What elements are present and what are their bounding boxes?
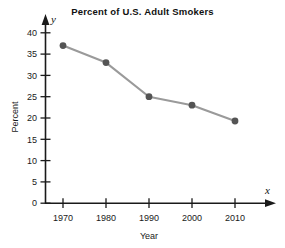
y-tick-label: 10 — [27, 156, 37, 166]
y-axis-tick-labels: 0 5 10 15 20 25 30 35 40 — [27, 28, 37, 208]
data-series-line — [63, 46, 235, 121]
y-axis-symbol: y — [50, 13, 56, 25]
x-axis-symbol: x — [264, 184, 270, 196]
chart-container: Percent of U.S. Adult Smokers y x 0 5 10 — [0, 0, 285, 248]
y-tick-label: 40 — [27, 28, 37, 38]
y-tick-label: 15 — [27, 135, 37, 145]
x-tick-label: 1990 — [139, 213, 159, 223]
data-point-marker — [232, 118, 239, 125]
data-point-marker — [189, 102, 196, 109]
y-tick-label: 5 — [32, 177, 37, 187]
x-tick-label: 1970 — [53, 213, 73, 223]
data-point-marker — [60, 42, 67, 49]
y-axis-label: Percent — [10, 101, 20, 133]
data-point-marker — [103, 59, 110, 66]
x-axis-arrow-icon — [265, 199, 276, 207]
y-axis-arrow-icon — [42, 14, 50, 25]
y-tick-label: 30 — [27, 71, 37, 81]
x-axis-label: Year — [140, 231, 158, 241]
x-tick-label: 2010 — [225, 213, 245, 223]
data-point-marker — [146, 93, 153, 100]
line-chart-plot: y x 0 5 10 15 20 25 30 35 40 — [0, 0, 285, 248]
y-tick-label: 25 — [27, 92, 37, 102]
x-axis-tick-labels: 1970 1980 1990 2000 2010 — [53, 213, 245, 223]
x-tick-label: 1980 — [96, 213, 116, 223]
y-tick-label: 0 — [32, 198, 37, 208]
y-tick-label: 35 — [27, 49, 37, 59]
y-tick-label: 20 — [27, 113, 37, 123]
x-tick-label: 2000 — [182, 213, 202, 223]
